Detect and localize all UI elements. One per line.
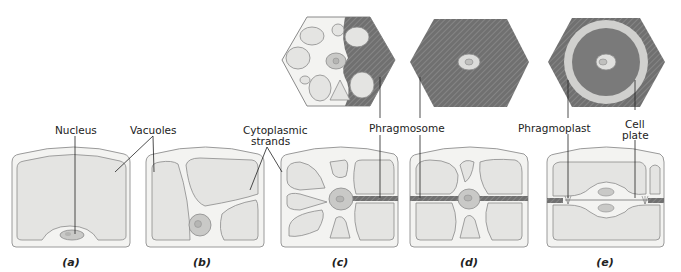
cell-c xyxy=(281,147,398,247)
panel-label-b: (b) xyxy=(187,256,217,269)
hexagon-view-e xyxy=(548,18,665,107)
label-nucleus: Nucleus xyxy=(55,124,97,136)
hexagon-view-c xyxy=(282,17,395,106)
hexagon-view-d xyxy=(410,19,529,107)
panel-label-e: (e) xyxy=(590,256,620,269)
cell-e xyxy=(547,147,664,247)
panel-label-c: (c) xyxy=(325,256,355,269)
label-vacuoles: Vacuoles xyxy=(130,124,177,136)
label-phragmosome: Phragmosome xyxy=(369,122,445,134)
cell-division-diagram xyxy=(0,0,681,272)
panel-label-d: (d) xyxy=(454,256,484,269)
cell-d xyxy=(410,147,528,247)
label-cytoplasmic-strands-line2: strands xyxy=(251,135,290,147)
panel-label-a: (a) xyxy=(56,256,86,269)
label-phragmoplast: Phragmoplast xyxy=(518,122,591,134)
label-cell-plate-line2: plate xyxy=(622,129,649,141)
cell-a xyxy=(12,147,130,247)
cell-b xyxy=(146,147,264,247)
